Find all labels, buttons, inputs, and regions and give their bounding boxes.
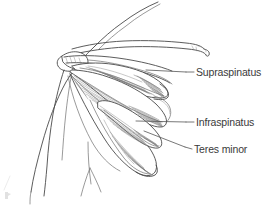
label-supraspinatus: Supraspinatus	[196, 66, 261, 78]
leader-supraspinatus	[146, 70, 186, 72]
anatomy-illustration: Supraspinatus Infraspinatus Teres minor	[0, 0, 264, 205]
torso-detail-lines	[81, 142, 101, 196]
leader-dash-teres-minor	[185, 147, 192, 149]
corner-mark-artifact	[4, 176, 11, 199]
anatomy-figure: Supraspinatus Infraspinatus Teres minor	[0, 0, 264, 205]
label-teres-minor: Teres minor	[194, 143, 248, 155]
label-infraspinatus: Infraspinatus	[196, 116, 254, 128]
